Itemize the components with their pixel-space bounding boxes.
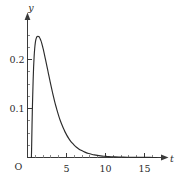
x-axis-arrowhead xyxy=(161,155,169,161)
density-curve xyxy=(31,36,157,157)
x-tick-label-15: 15 xyxy=(138,163,150,174)
x-axis-label: t xyxy=(170,153,174,164)
y-axis-label: y xyxy=(27,2,34,13)
plot-area: 5 10 15 0.1 0.2 O t y xyxy=(0,0,181,181)
x-tick-label-5: 5 xyxy=(63,163,69,174)
chart-figure: 5 10 15 0.1 0.2 O t y xyxy=(0,0,181,181)
x-tick-label-10: 10 xyxy=(99,163,111,174)
y-axis-arrowhead xyxy=(25,13,31,21)
y-tick-label-0.1: 0.1 xyxy=(9,103,24,114)
origin-label: O xyxy=(15,161,23,172)
y-tick-label-0.2: 0.2 xyxy=(9,54,24,65)
